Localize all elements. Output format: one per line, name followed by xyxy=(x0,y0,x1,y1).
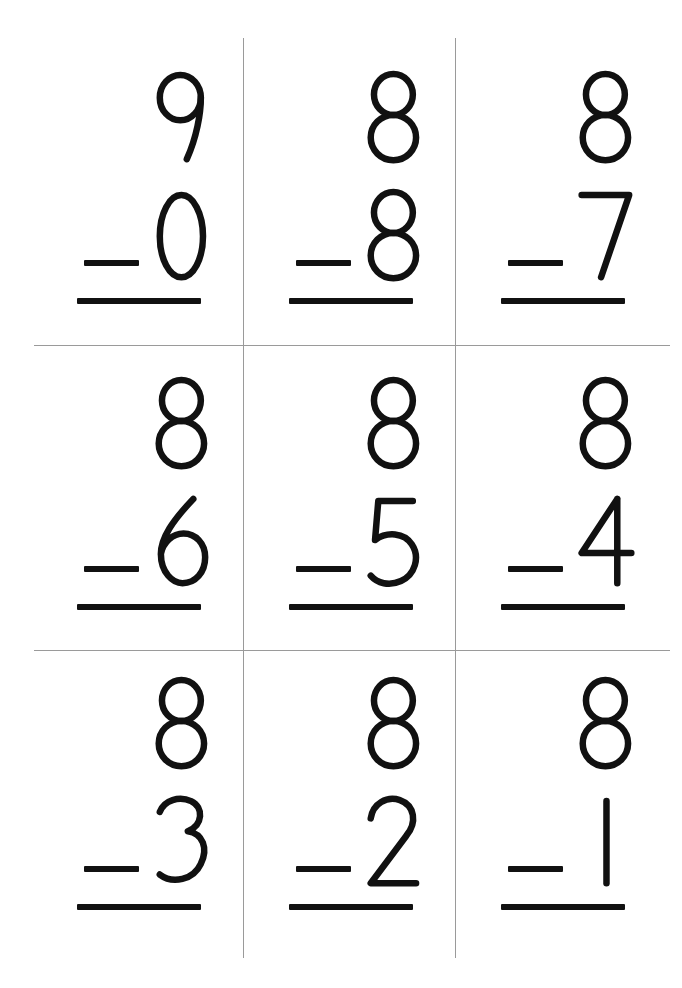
subtrahend-row xyxy=(83,486,214,606)
answer-rule[interactable] xyxy=(77,904,201,910)
minus-sign-icon xyxy=(295,786,361,904)
minuend-digit xyxy=(149,668,214,788)
minuend-digit xyxy=(149,368,214,488)
subtrahend-digit xyxy=(361,180,426,288)
answer-rule[interactable] xyxy=(289,604,413,610)
answer-rule[interactable] xyxy=(77,298,201,304)
subtrahend-row xyxy=(295,486,426,606)
minus-sign-icon xyxy=(295,486,361,604)
problem-cell xyxy=(246,62,448,312)
problem-cell xyxy=(458,62,660,312)
answer-rule[interactable] xyxy=(501,604,625,610)
answer-rule[interactable] xyxy=(289,904,413,910)
subtrahend-digit xyxy=(573,486,638,594)
grid-vertical-rule-2 xyxy=(455,38,456,958)
grid-horizontal-rule-1 xyxy=(34,345,670,346)
minuend-digit xyxy=(573,62,638,182)
minuend-digit xyxy=(361,368,426,488)
problem-cell xyxy=(34,668,236,918)
problem-cell xyxy=(34,368,236,618)
minus-sign-icon xyxy=(507,180,573,298)
worksheet-page xyxy=(0,0,682,988)
problem-cell xyxy=(246,668,448,918)
answer-rule[interactable] xyxy=(77,604,201,610)
minuend-digit xyxy=(361,668,426,788)
grid-horizontal-rule-2 xyxy=(34,650,670,651)
subtrahend-row xyxy=(295,180,426,300)
subtrahend-digit xyxy=(573,786,638,894)
minuend-digit xyxy=(361,62,426,182)
minuend-digit xyxy=(573,668,638,788)
subtrahend-row xyxy=(83,180,214,300)
subtrahend-digit xyxy=(149,180,214,288)
minuend-digit xyxy=(149,62,214,182)
answer-rule[interactable] xyxy=(501,904,625,910)
subtrahend-row xyxy=(295,786,426,906)
subtrahend-row xyxy=(507,180,638,300)
problem-cell xyxy=(458,368,660,618)
answer-rule[interactable] xyxy=(289,298,413,304)
subtrahend-row xyxy=(507,486,638,606)
subtrahend-digit xyxy=(573,180,638,288)
subtrahend-digit xyxy=(361,486,426,594)
minus-sign-icon xyxy=(83,486,149,604)
minuend-digit xyxy=(573,368,638,488)
problem-cell xyxy=(458,668,660,918)
minus-sign-icon xyxy=(295,180,361,298)
subtrahend-digit xyxy=(149,786,214,894)
minus-sign-icon xyxy=(507,786,573,904)
subtrahend-digit xyxy=(149,486,214,594)
minus-sign-icon xyxy=(83,180,149,298)
subtrahend-row xyxy=(507,786,638,906)
problem-cell xyxy=(34,62,236,312)
minus-sign-icon xyxy=(83,786,149,904)
minus-sign-icon xyxy=(507,486,573,604)
subtrahend-row xyxy=(83,786,214,906)
answer-rule[interactable] xyxy=(501,298,625,304)
problem-cell xyxy=(246,368,448,618)
subtrahend-digit xyxy=(361,786,426,894)
grid-vertical-rule-1 xyxy=(243,38,244,958)
